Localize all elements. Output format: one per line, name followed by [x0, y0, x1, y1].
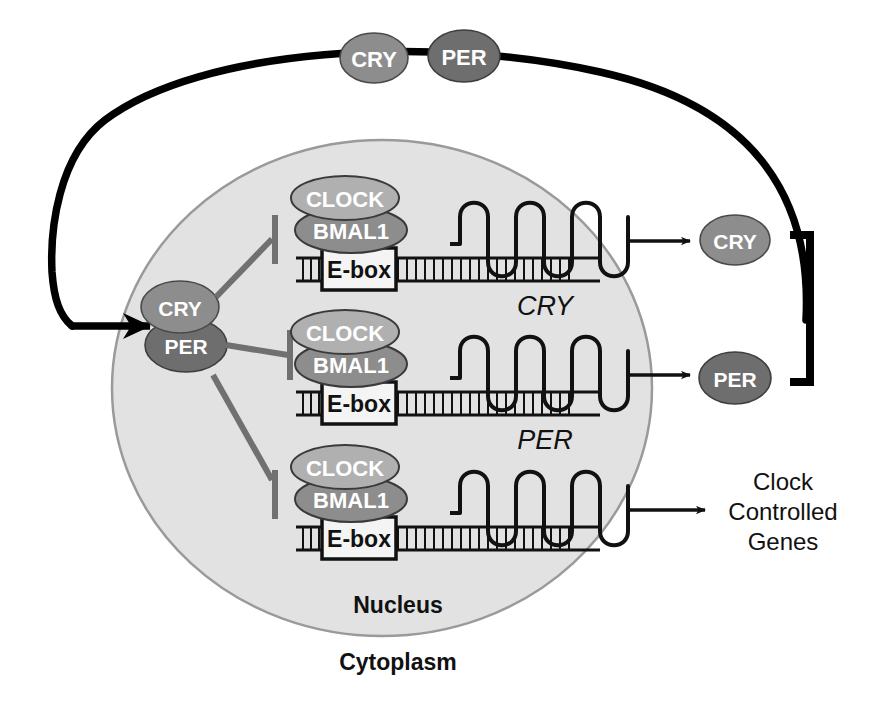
- ccg-line-1: Clock: [753, 468, 814, 495]
- ccg-line-3: Genes: [748, 528, 819, 555]
- membrane-cry-label: CRY: [351, 47, 397, 72]
- transcript-label-per: PER: [517, 425, 573, 455]
- transcript-label-cry: CRY: [517, 291, 575, 321]
- bmal1-cry-label: BMAL1: [313, 219, 389, 244]
- ccg-line-2: Controlled: [728, 498, 837, 525]
- output-per-label: PER: [713, 368, 756, 391]
- nucleus-label: Nucleus: [353, 592, 442, 618]
- ebox-cry-label: E-box: [327, 257, 391, 283]
- diagram-canvas: CRY PER CRY PER: [0, 0, 889, 720]
- clock-ccg-label: CLOCK: [306, 456, 384, 481]
- ebox-ccg-label: E-box: [327, 526, 391, 552]
- circadian-clock-diagram: CRY PER CRY PER: [0, 0, 889, 720]
- bmal1-per-label: BMAL1: [313, 353, 389, 378]
- clock-cry-label: CLOCK: [306, 187, 384, 212]
- bmal1-ccg-label: BMAL1: [313, 488, 389, 513]
- ebox-per-label: E-box: [327, 391, 391, 417]
- cytoplasm-label: Cytoplasm: [339, 649, 457, 675]
- nuclear-cry-label: CRY: [158, 297, 202, 320]
- nuclear-per-label: PER: [164, 335, 207, 358]
- output-cry-label: CRY: [713, 230, 757, 253]
- clock-per-label: CLOCK: [306, 321, 384, 346]
- membrane-cry-per-complex: CRY PER: [340, 30, 500, 83]
- membrane-per-label: PER: [441, 45, 486, 70]
